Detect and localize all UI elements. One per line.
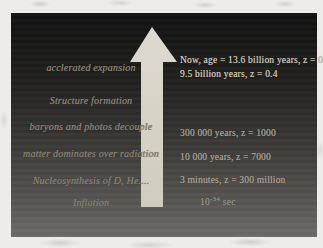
label-inflation: Inflation bbox=[11, 197, 171, 208]
planck-exponent: -34 bbox=[210, 195, 220, 203]
timeline-slide: acclerated expansion Structure formation… bbox=[11, 13, 317, 237]
planck-unit: sec bbox=[223, 197, 236, 207]
label-planck-time: 10-34sec bbox=[200, 197, 236, 207]
label-baryons-photons-decouple: baryons and photos decouple bbox=[11, 121, 171, 132]
label-matter-dominates: matter dominates over radiation bbox=[11, 148, 171, 159]
label-structure-formation: Structure formation bbox=[11, 95, 171, 106]
planck-base: 10 bbox=[200, 197, 210, 207]
label-9-5-billion: 9.5 billion years, z = 0.4 bbox=[180, 69, 278, 79]
label-3-minutes: 3 minutes, z = 300 million bbox=[180, 175, 286, 185]
scanned-page: { "figure": { "description": "Cosmic his… bbox=[0, 0, 323, 248]
label-10000-years: 10 000 years, z = 7000 bbox=[180, 152, 271, 162]
label-nucleosynthesis: Nucleosynthesis of D, He.... bbox=[11, 175, 171, 186]
label-300000-years: 300 000 years, z = 1000 bbox=[180, 128, 276, 138]
label-now-age: Now, age = 13.6 billion years, z = 0 bbox=[180, 55, 323, 65]
label-accelerated-expansion: acclerated expansion bbox=[11, 62, 171, 73]
